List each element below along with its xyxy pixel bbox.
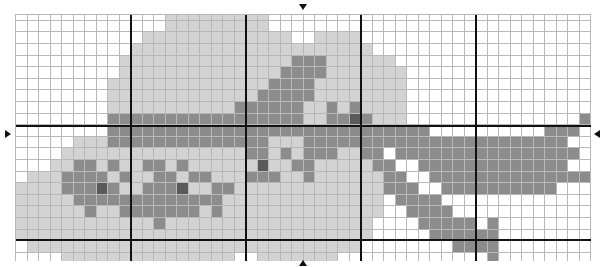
grid-cell[interactable] [545,137,557,149]
grid-cell[interactable] [177,32,189,44]
grid-cell[interactable] [28,125,40,137]
grid-cell[interactable] [97,206,109,218]
grid-cell[interactable] [568,125,580,137]
grid-cell[interactable] [189,90,201,102]
grid-cell[interactable] [108,241,120,253]
grid-cell[interactable] [85,125,97,137]
grid-cell[interactable] [292,241,304,253]
grid-cell[interactable] [62,32,74,44]
grid-cell[interactable] [338,137,350,149]
grid-cell[interactable] [338,241,350,253]
grid-cell[interactable] [338,148,350,160]
grid-cell[interactable] [419,253,431,261]
grid-cell[interactable] [580,183,592,195]
grid-cell[interactable] [580,195,592,207]
grid-cell[interactable] [499,195,511,207]
grid-cell[interactable] [28,241,40,253]
grid-cell[interactable] [499,102,511,114]
puzzle-grid[interactable] [16,15,591,261]
grid-cell[interactable] [51,183,63,195]
grid-cell[interactable] [580,206,592,218]
grid-cell[interactable] [143,32,155,44]
grid-cell[interactable] [476,32,488,44]
grid-cell[interactable] [419,102,431,114]
grid-cell[interactable] [580,56,592,68]
grid-cell[interactable] [189,102,201,114]
grid-cell[interactable] [534,253,546,261]
grid-cell[interactable] [384,183,396,195]
grid-cell[interactable] [177,241,189,253]
grid-cell[interactable] [16,241,28,253]
grid-cell[interactable] [476,172,488,184]
grid-cell[interactable] [580,137,592,149]
grid-cell[interactable] [97,183,109,195]
grid-cell[interactable] [545,44,557,56]
grid-cell[interactable] [39,44,51,56]
grid-cell[interactable] [85,253,97,261]
grid-cell[interactable] [62,44,74,56]
grid-cell[interactable] [108,67,120,79]
grid-cell[interactable] [166,172,178,184]
grid-cell[interactable] [453,195,465,207]
grid-cell[interactable] [499,218,511,230]
grid-cell[interactable] [258,253,270,261]
grid-cell[interactable] [396,79,408,91]
grid-cell[interactable] [97,90,109,102]
grid-cell[interactable] [476,67,488,79]
grid-cell[interactable] [200,148,212,160]
grid-cell[interactable] [453,148,465,160]
grid-cell[interactable] [258,102,270,114]
grid-cell[interactable] [28,183,40,195]
grid-cell[interactable] [177,44,189,56]
grid-cell[interactable] [419,21,431,33]
grid-cell[interactable] [62,90,74,102]
grid-cell[interactable] [258,125,270,137]
grid-cell[interactable] [442,79,454,91]
grid-cell[interactable] [51,218,63,230]
grid-cell[interactable] [51,44,63,56]
grid-cell[interactable] [258,44,270,56]
grid-cell[interactable] [292,183,304,195]
grid-cell[interactable] [384,206,396,218]
grid-cell[interactable] [499,32,511,44]
grid-cell[interactable] [511,125,523,137]
grid-cell[interactable] [453,241,465,253]
grid-cell[interactable] [166,44,178,56]
grid-cell[interactable] [189,21,201,33]
grid-cell[interactable] [108,102,120,114]
grid-cell[interactable] [269,21,281,33]
grid-cell[interactable] [292,195,304,207]
grid-cell[interactable] [511,114,523,126]
grid-cell[interactable] [568,218,580,230]
grid-cell[interactable] [442,218,454,230]
grid-cell[interactable] [488,241,500,253]
grid-cell[interactable] [557,102,569,114]
grid-cell[interactable] [488,195,500,207]
grid-cell[interactable] [407,160,419,172]
grid-cell[interactable] [384,253,396,261]
grid-cell[interactable] [16,67,28,79]
grid-cell[interactable] [430,172,442,184]
grid-cell[interactable] [522,137,534,149]
grid-cell[interactable] [223,148,235,160]
grid-cell[interactable] [304,32,316,44]
grid-cell[interactable] [361,195,373,207]
grid-cell[interactable] [361,102,373,114]
grid-cell[interactable] [212,218,224,230]
grid-cell[interactable] [407,56,419,68]
grid-cell[interactable] [442,67,454,79]
grid-cell[interactable] [557,137,569,149]
grid-cell[interactable] [269,125,281,137]
grid-cell[interactable] [154,218,166,230]
grid-cell[interactable] [568,32,580,44]
grid-cell[interactable] [62,56,74,68]
grid-cell[interactable] [177,148,189,160]
grid-cell[interactable] [62,195,74,207]
grid-cell[interactable] [131,148,143,160]
grid-cell[interactable] [396,172,408,184]
grid-cell[interactable] [74,79,86,91]
grid-cell[interactable] [108,114,120,126]
grid-cell[interactable] [396,32,408,44]
grid-cell[interactable] [154,90,166,102]
grid-cell[interactable] [269,206,281,218]
